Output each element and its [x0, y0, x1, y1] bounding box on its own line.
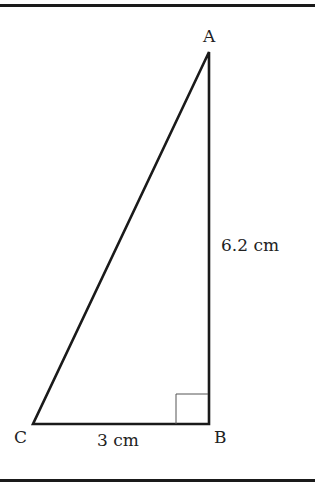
triangle-abc: [33, 52, 209, 424]
diagram-canvas: A B C 3 cm 6.2 cm: [0, 0, 315, 489]
side-label-bc: 3 cm: [97, 432, 139, 449]
right-angle-marker: [176, 394, 208, 424]
vertex-label-b: B: [214, 429, 227, 446]
vertex-label-a: A: [203, 28, 215, 45]
vertex-label-c: C: [14, 429, 27, 446]
side-label-ab: 6.2 cm: [221, 237, 279, 254]
